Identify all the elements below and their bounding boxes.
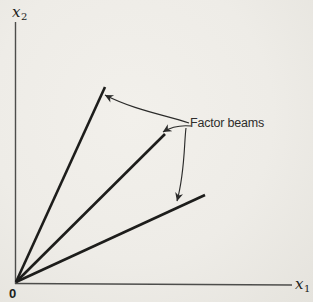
origin-label: 0 — [9, 287, 16, 300]
x-axis-label-subscript: 1 — [304, 283, 310, 294]
y-axis-label-subscript: 2 — [21, 11, 27, 22]
y-axis-label: x2 — [12, 5, 27, 22]
factor-beam-lower — [16, 195, 205, 282]
pointer-arrow-to-lower-beam-icon — [177, 128, 186, 201]
pointer-arrow-to-middle-beam-icon — [163, 126, 191, 132]
pointer-arrow-to-upper-beam-icon — [105, 95, 189, 123]
y-axis-label-base: x — [12, 3, 20, 21]
factor-beams-label: Factor beams — [190, 117, 264, 130]
diagram-svg — [0, 0, 313, 302]
figure-canvas: x2 x1 0 Factor beams — [0, 0, 313, 302]
factor-beam-middle — [16, 134, 165, 282]
x-axis-label-base: x — [295, 275, 303, 293]
x-axis-label: x1 — [295, 277, 310, 294]
factor-beam-upper — [16, 87, 105, 282]
x-axis — [15, 284, 292, 286]
